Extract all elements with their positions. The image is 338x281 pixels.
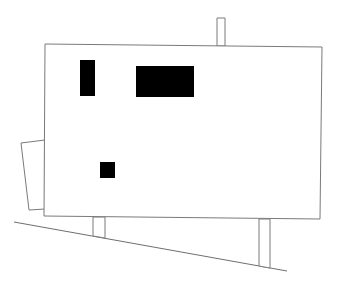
left-annex [21,140,45,210]
elevation-svg [0,0,338,281]
chimney [217,18,225,46]
window-tall [80,60,95,96]
support-left [93,217,105,238]
window-small [100,162,115,178]
window-wide [136,66,194,97]
ground-line [14,222,287,271]
elevation-drawing [0,0,338,281]
support-right [259,219,270,268]
